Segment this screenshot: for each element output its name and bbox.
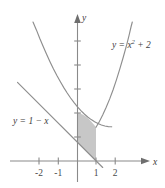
parabola-equation-tail: + 2 — [135, 40, 151, 50]
x-tick-label-2: 2 — [113, 168, 118, 178]
y-axis-label: y — [81, 13, 87, 23]
parabola-equation-base: y = x — [112, 40, 132, 50]
parabola-curve — [33, 22, 112, 127]
line-equation-label: y = 1 − x — [13, 117, 49, 127]
parabola-right-branch — [96, 22, 132, 127]
figure-container: x y -2 -1 1 2 y = x2 + 2 y = 1 − x — [0, 0, 165, 188]
x-tick-label-1: 1 — [94, 168, 99, 178]
x-axis-arrow-icon — [141, 158, 150, 164]
graph-canvas: x y -2 -1 1 2 — [0, 0, 165, 188]
x-tick-label--2: -2 — [35, 168, 43, 178]
y-axis-arrow-icon — [74, 14, 81, 23]
parabola-equation-label: y = x2 + 2 — [112, 41, 151, 51]
x-axis-label: x — [152, 157, 158, 167]
x-tick-label--1: -1 — [54, 168, 62, 178]
